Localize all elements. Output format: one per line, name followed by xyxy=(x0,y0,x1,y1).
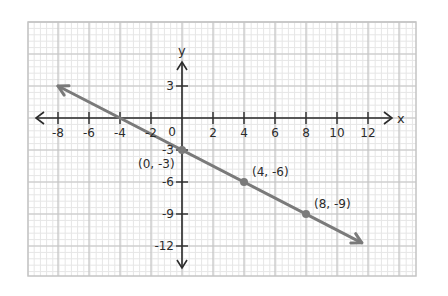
y-tick-label: -9 xyxy=(162,207,174,221)
x-tick-label: 6 xyxy=(271,126,279,140)
y-tick-label: -12 xyxy=(154,239,174,253)
x-tick-label: 12 xyxy=(360,126,375,140)
y-tick-label: -6 xyxy=(162,175,174,189)
series-line xyxy=(58,86,362,243)
coordinate-plane-chart: xy-8-6-4-22468101203-3-6-9-12(0, -3)(4, … xyxy=(0,0,448,296)
x-axis-label: x xyxy=(397,111,405,126)
data-point xyxy=(240,178,248,186)
y-tick-label: -3 xyxy=(162,143,174,157)
x-tick-label: -6 xyxy=(83,126,95,140)
y-tick-label: 3 xyxy=(166,79,174,93)
data-point-label: (4, -6) xyxy=(252,165,289,179)
x-tick-label: 2 xyxy=(209,126,217,140)
series-group xyxy=(58,86,362,243)
labels-group: xy-8-6-4-22468101203-3-6-9-12(0, -3)(4, … xyxy=(52,43,405,253)
x-tick-label: 10 xyxy=(329,126,344,140)
data-point xyxy=(178,146,186,154)
x-tick-label: -2 xyxy=(145,126,157,140)
origin-label: 0 xyxy=(168,125,176,139)
x-tick-label: -4 xyxy=(114,126,126,140)
data-point-label: (0, -3) xyxy=(138,157,175,171)
y-axis-label: y xyxy=(178,43,186,58)
x-tick-label: 8 xyxy=(302,126,310,140)
x-tick-label: 4 xyxy=(240,126,248,140)
data-point xyxy=(302,210,310,218)
x-tick-label: -8 xyxy=(52,126,64,140)
data-point-label: (8, -9) xyxy=(314,197,351,211)
